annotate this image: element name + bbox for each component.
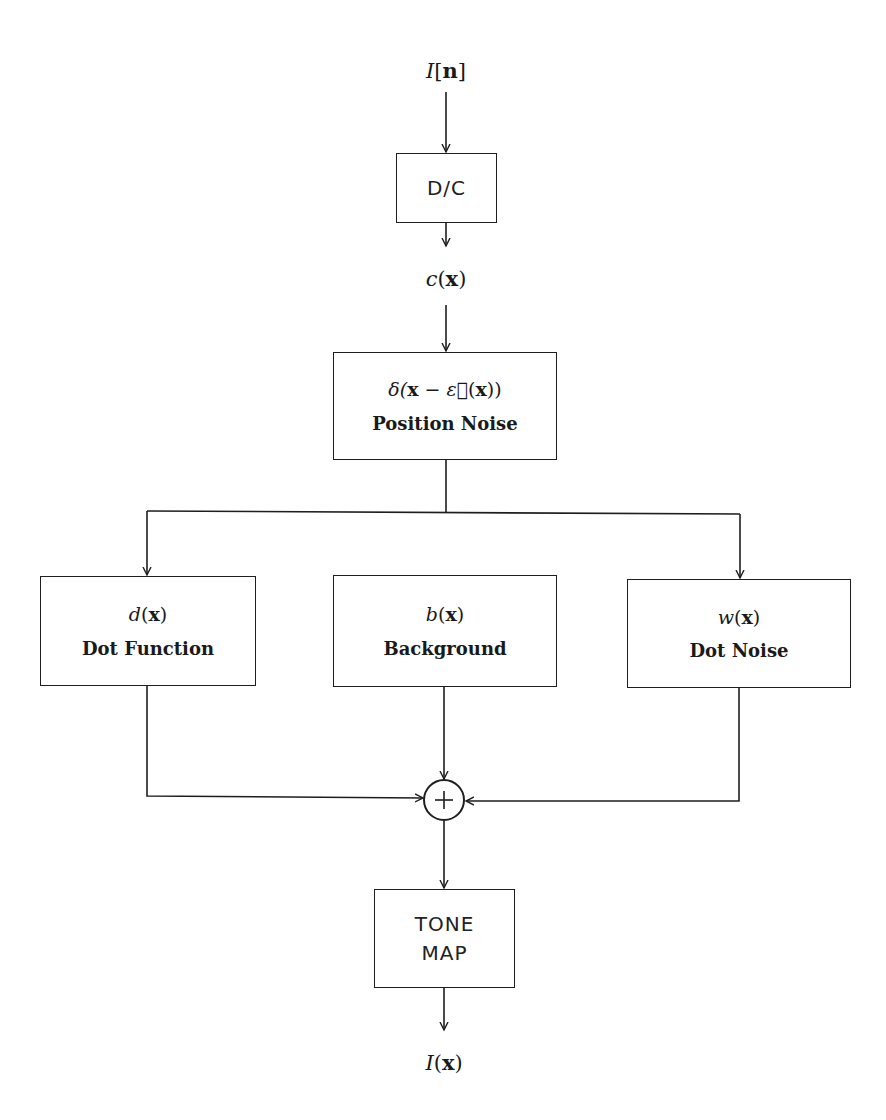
dot-noise-arg: x [741, 606, 752, 628]
tone-map-line1: TONE [415, 910, 475, 939]
epsilon-vector-symbol: ε⃗ [447, 378, 469, 400]
arrow-dot-function-to-sum [147, 685, 423, 798]
input-signal-var: I [426, 59, 434, 83]
position-noise-label: Position Noise [372, 413, 517, 434]
dot-function-var: d [129, 603, 141, 625]
output-signal-var: I [425, 1051, 433, 1075]
dot-function-label: Dot Function [82, 638, 214, 659]
dc-converter-label: D/C [427, 176, 466, 200]
background-block: b(x) Background [333, 575, 557, 687]
dot-noise-var: w [718, 606, 734, 628]
input-signal-label: I[n] [426, 58, 466, 83]
continuous-signal-var: c [426, 267, 438, 291]
background-arg: x [445, 603, 456, 625]
tone-map-line2: MAP [422, 939, 468, 968]
dot-noise-formula: w(x) [718, 606, 760, 629]
input-signal-arg: n [443, 58, 458, 83]
continuous-signal-arg: x [446, 266, 459, 291]
output-signal-arg: x [442, 1050, 455, 1075]
formula-minus: − [419, 378, 447, 400]
formula-close: )) [487, 378, 502, 400]
output-signal-label: I(x) [425, 1050, 462, 1075]
background-formula: b(x) [426, 603, 464, 626]
delta-symbol: δ( [388, 378, 407, 400]
formula-arg-open: ( [468, 378, 475, 400]
dot-function-arg: x [148, 603, 159, 625]
tone-map-block: TONE MAP [374, 889, 515, 988]
dot-function-block: d(x) Dot Function [40, 576, 256, 686]
dc-converter-block: D/C [396, 153, 497, 223]
formula-x: x [407, 378, 418, 400]
position-noise-block: δ(x − ε⃗(x)) Position Noise [333, 352, 557, 460]
sum-junction [424, 780, 464, 820]
dot-noise-block: w(x) Dot Noise [627, 579, 851, 688]
formula-arg: x [476, 378, 487, 400]
wire-splitter-horizontal [147, 511, 740, 514]
continuous-signal-label: c(x) [426, 266, 467, 291]
arrow-dot-noise-to-sum [466, 687, 739, 801]
position-noise-formula: δ(x − ε⃗(x)) [388, 378, 501, 401]
background-var: b [426, 603, 438, 625]
background-label: Background [383, 638, 506, 659]
dot-function-formula: d(x) [129, 603, 167, 626]
dot-noise-label: Dot Noise [689, 640, 788, 661]
